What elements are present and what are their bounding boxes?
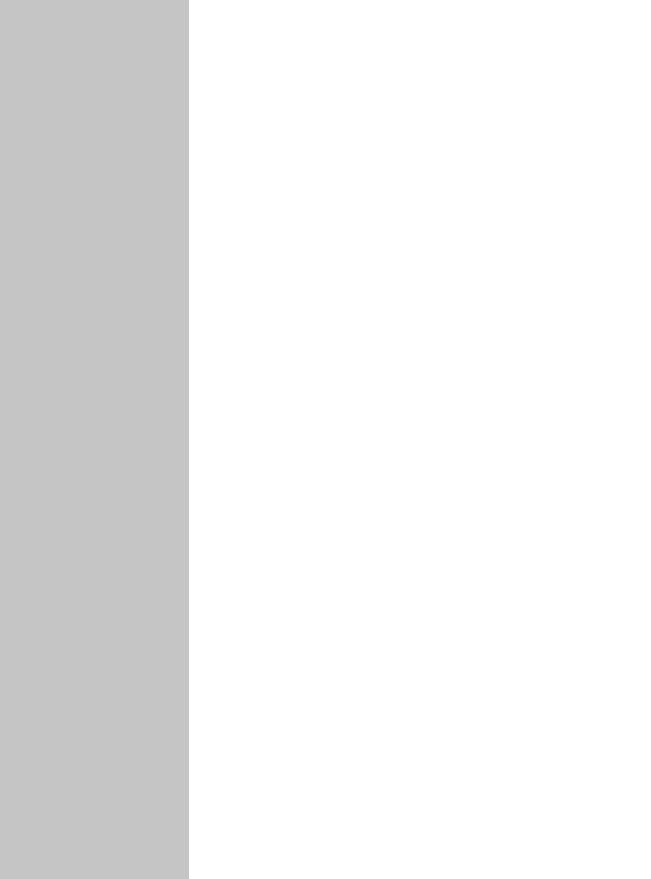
app-window bbox=[0, 0, 651, 879]
main-content-area bbox=[189, 0, 651, 879]
sidebar-panel bbox=[0, 0, 189, 879]
